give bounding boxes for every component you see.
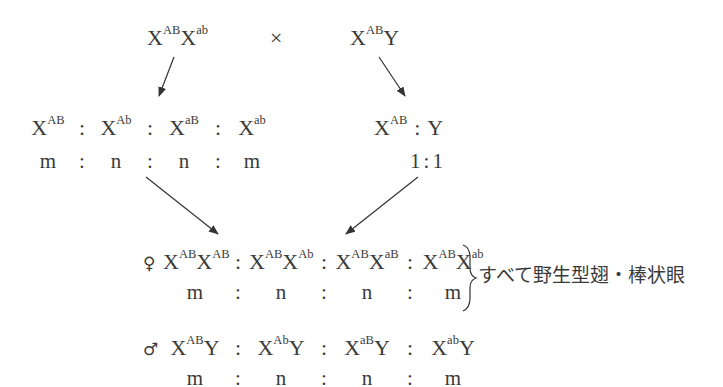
arrow-male-gametes-to-offspring bbox=[346, 177, 418, 234]
arrow-female-to-gametes bbox=[159, 57, 174, 96]
phenotype-note: すべて野生型翅・棒状眼 bbox=[478, 264, 685, 286]
gamete: XAB bbox=[27, 117, 69, 139]
male-offspring-genotypes: XABY:XAbY:XaBY:XabY bbox=[163, 337, 485, 359]
gamete: XAb bbox=[95, 117, 137, 139]
separator: : bbox=[205, 117, 231, 139]
female-symbol-icon: ♀ bbox=[143, 252, 155, 274]
female-offspring-genotypes: XABXAB:XABXAb:XABXaB:XABXab bbox=[163, 251, 485, 273]
separator: : bbox=[137, 117, 163, 139]
arrows-layer bbox=[0, 0, 723, 387]
female-gamete-ratio: m:n:n:m bbox=[27, 150, 273, 172]
male-symbol-icon: ♂ bbox=[143, 338, 158, 360]
male-offspring-ratio: m:n:n:m bbox=[163, 367, 485, 387]
female-offspring-ratio: m:n:n:m bbox=[163, 281, 485, 303]
male-gametes: XAB:Y bbox=[374, 117, 443, 139]
male-gamete-ratio: 1:1 bbox=[410, 150, 443, 172]
separator: : bbox=[69, 117, 95, 139]
female-gametes: XAB:XAb:XaB:Xab bbox=[27, 117, 273, 139]
arrow-female-gametes-to-offspring bbox=[146, 177, 218, 234]
gamete: Xab bbox=[231, 117, 273, 139]
arrow-male-to-gametes bbox=[379, 57, 405, 96]
gamete: XaB bbox=[163, 117, 205, 139]
